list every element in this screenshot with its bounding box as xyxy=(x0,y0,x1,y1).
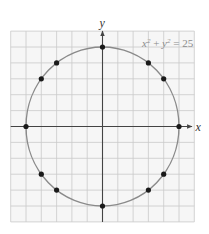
y-axis-label: y xyxy=(99,16,106,30)
circle-graph: x y x2 + y2 = 25 xyxy=(0,0,209,234)
data-point xyxy=(23,124,28,129)
equation-rhs: 25 xyxy=(182,37,194,49)
data-point xyxy=(39,172,44,177)
data-point xyxy=(54,188,59,193)
data-point xyxy=(100,203,105,208)
x-axis-label: x xyxy=(195,120,202,134)
data-point xyxy=(39,76,44,81)
data-point xyxy=(100,44,105,49)
equation-equals: = xyxy=(171,37,183,49)
equation-plus: + xyxy=(150,37,162,49)
data-point xyxy=(146,60,151,65)
data-point xyxy=(54,60,59,65)
data-point xyxy=(176,124,181,129)
data-point xyxy=(161,172,166,177)
data-point xyxy=(146,188,151,193)
data-point xyxy=(161,76,166,81)
